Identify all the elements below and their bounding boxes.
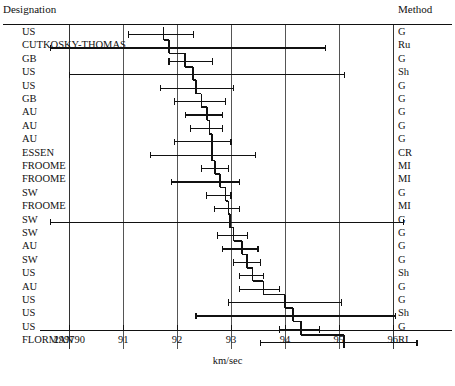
x-tick-91 xyxy=(123,325,124,331)
x-axis-line xyxy=(40,330,452,331)
x-tick-label: 96 xyxy=(353,334,433,345)
x-axis-title: km/sec xyxy=(0,355,455,366)
x-tick-95 xyxy=(339,325,340,331)
error-bar-overlay xyxy=(0,0,455,386)
x-tick-92 xyxy=(177,325,178,331)
x-tick-299790 xyxy=(69,325,70,331)
x-tick-96 xyxy=(393,325,394,331)
x-tick-93 xyxy=(231,325,232,331)
x-tick-94 xyxy=(285,325,286,331)
forest-plot-figure: Designation Method USGCUTKOSKY-THOMASRuG… xyxy=(0,0,455,386)
